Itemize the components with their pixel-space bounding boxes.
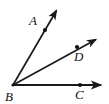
point-dot-A: [43, 28, 47, 32]
geometry-canvas: [0, 0, 109, 104]
point-label-B: B: [5, 90, 13, 103]
angle-diagram: A B C D: [0, 0, 109, 104]
point-dot-B: [11, 83, 14, 86]
point-label-D: D: [74, 50, 83, 63]
point-label-A: A: [29, 14, 37, 27]
point-label-C: C: [75, 88, 84, 101]
